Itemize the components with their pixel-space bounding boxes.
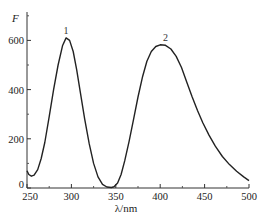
x-axis-title: λ/nm (115, 202, 138, 214)
x-ticks: 250300350400450500 (22, 184, 257, 202)
fluorescence-spectrum-chart: 250300350400450500 0200400600 12 F λ/nm (0, 0, 264, 217)
y-axis-title: F (11, 12, 19, 24)
y-ticks: 0200400600 (8, 16, 31, 190)
y-tick-label: 400 (8, 85, 24, 96)
peak-annotations: 12 (64, 25, 168, 43)
y-tick-label: 0 (19, 179, 24, 190)
x-tick-label: 400 (152, 191, 168, 202)
y-tick-label: 200 (8, 134, 24, 145)
x-tick-label: 250 (22, 191, 38, 202)
peak-label: 2 (163, 32, 168, 43)
fluorescence-curve (27, 38, 249, 188)
x-tick-label: 500 (241, 191, 257, 202)
x-tick-label: 350 (108, 191, 124, 202)
x-tick-label: 300 (64, 191, 80, 202)
y-tick-label: 600 (8, 35, 24, 46)
x-tick-label: 450 (197, 191, 213, 202)
peak-label: 1 (64, 25, 69, 36)
